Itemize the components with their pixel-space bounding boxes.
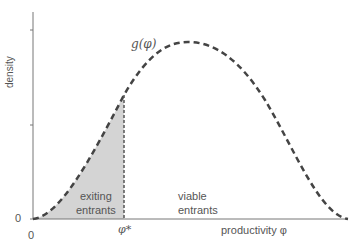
y-zero-label: 0 — [15, 212, 21, 225]
x-axis-label: productivity φ — [221, 224, 287, 237]
x-zero-label: 0 — [28, 229, 34, 242]
viable-label-2: entrants — [178, 204, 218, 217]
exiting-label-2: entrants — [76, 204, 116, 217]
curve-label: g(φ) — [131, 38, 156, 51]
exiting-label-1: exiting — [80, 190, 112, 203]
viable-label-1: viable — [178, 190, 207, 203]
threshold-label: φ* — [118, 223, 131, 236]
y-axis-label: density — [4, 56, 15, 88]
